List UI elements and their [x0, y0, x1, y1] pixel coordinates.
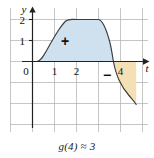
x-tick-label-0: 0 [23, 65, 29, 77]
x-tick-label-2: 2 [74, 65, 80, 77]
x-tick-label-4: 4 [118, 65, 124, 77]
x-tick-label-1: 1 [52, 65, 58, 77]
x-axis-label: t [145, 62, 149, 74]
y-tick-label-2: 2 [20, 14, 26, 26]
chart-svg: y t 2 1 0 1 2 4 + − [0, 0, 154, 136]
negative-sign-label: − [103, 67, 111, 83]
y-tick-label-1: 1 [20, 35, 26, 47]
figure-caption: g(4) ≈ 3 [0, 136, 154, 158]
y-axis-arrow [29, 7, 35, 13]
positive-sign-label: + [61, 33, 69, 49]
plot-area: y t 2 1 0 1 2 4 + − [0, 0, 154, 136]
figure-container: y t 2 1 0 1 2 4 + − g(4) ≈ 3 [0, 0, 154, 158]
